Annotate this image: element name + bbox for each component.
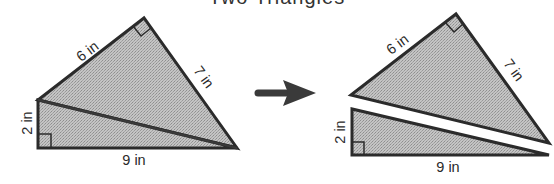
label-9in-after: 9 in [436, 159, 459, 175]
label-9in-before: 9 in [122, 152, 145, 168]
arrow-right-icon [258, 80, 316, 106]
combined-shape: 6 in 7 in 2 in 9 in [19, 18, 237, 168]
label-2in-before: 2 in [19, 111, 35, 134]
triangles-diagram: 6 in 7 in 2 in 9 in 6 in 7 in 2 in 9 in [0, 0, 554, 184]
diagram-stage: Two Triangles 6 in 7 in 2 in 9 in [0, 0, 554, 184]
separated-shapes: 6 in 7 in 2 in 9 in [332, 14, 549, 175]
label-2in-after: 2 in [332, 120, 348, 143]
